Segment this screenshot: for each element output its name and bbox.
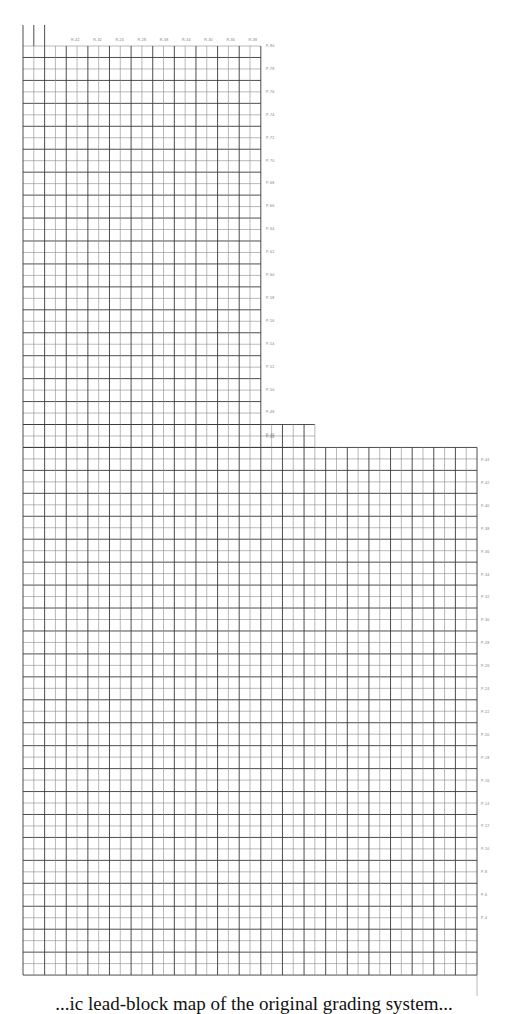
row-label: P-6 [481, 893, 487, 897]
row-label: P-28 [481, 641, 489, 645]
row-label: P-72 [266, 136, 274, 140]
upper-right-row-labels: P-80P-78P-76P-74P-72P-70P-68P-66P-64P-62… [266, 44, 274, 437]
row-label: P-22 [481, 710, 489, 714]
row-label: P-50 [266, 388, 274, 392]
row-label: P-14 [481, 802, 489, 806]
row-label: P-10 [481, 847, 489, 851]
row-label: P-54 [266, 342, 274, 346]
row-label: P-8 [481, 870, 487, 874]
row-label: P-60 [266, 273, 274, 277]
row-label: P-24 [481, 687, 489, 691]
row-label: P-78 [266, 67, 274, 71]
row-label: P-40 [481, 504, 489, 508]
row-label: P-48 [266, 410, 274, 414]
row-label: P-16 [481, 779, 489, 783]
column-label: R-34 [182, 38, 191, 42]
row-label: P-70 [266, 159, 274, 163]
column-label: R-36 [226, 38, 235, 42]
row-label: P-74 [266, 113, 274, 117]
column-label: R-38 [160, 38, 169, 42]
row-label: P-66 [266, 204, 274, 208]
row-label: P-80 [266, 44, 274, 48]
row-label: P-68 [266, 181, 274, 185]
column-label: R-38 [249, 38, 258, 42]
row-label: P-18 [481, 756, 489, 760]
row-label: P-12 [481, 824, 489, 828]
row-label: P-34 [481, 573, 489, 577]
row-label: P-30 [481, 618, 489, 622]
top-column-labels: R-42R-32R-24R-28R-38R-34R-30R-36R-38 [71, 38, 257, 42]
column-label: R-24 [115, 38, 124, 42]
row-label: P-38 [481, 527, 489, 531]
row-label: P-62 [266, 250, 274, 254]
grid-lines [23, 25, 477, 996]
column-label: R-42 [71, 38, 80, 42]
column-label: R-30 [204, 38, 213, 42]
row-label: P-58 [266, 296, 274, 300]
row-label: P-52 [266, 365, 274, 369]
figure-caption: ...ic lead-block map of the original gra… [0, 994, 508, 1014]
row-label: P-26 [481, 664, 489, 668]
row-label: P-76 [266, 90, 274, 94]
row-label: P-4 [481, 916, 487, 920]
column-label: R-32 [93, 38, 102, 42]
row-label: P-36 [481, 550, 489, 554]
step-row-label: P-46 [266, 435, 274, 439]
row-label: P-32 [481, 595, 489, 599]
row-label: P-44 [481, 458, 489, 462]
row-label: P-42 [481, 481, 489, 485]
lower-right-row-labels: P-44P-42P-40P-38P-36P-34P-32P-30P-28P-26… [481, 458, 489, 920]
column-label: R-28 [138, 38, 147, 42]
row-label: P-20 [481, 733, 489, 737]
row-label: P-64 [266, 227, 274, 231]
row-label: P-56 [266, 319, 274, 323]
